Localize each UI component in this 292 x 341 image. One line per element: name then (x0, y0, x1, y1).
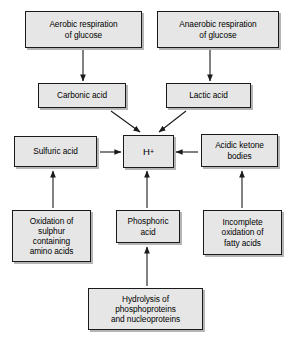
node-sulfuric: Sulfuric acid (14, 136, 97, 167)
node-fatty-acid-oxidation: Incomplete oxidation of fatty acids (203, 210, 282, 255)
node-label-lactic: Lactic acid (189, 90, 228, 100)
node-phosphoric: Phosphoric acid (116, 210, 180, 243)
node-ketone: Acidic ketone bodies (201, 134, 278, 167)
node-label-carbonic: Carbonic acid (57, 90, 107, 100)
node-aerobic: Aerobic respiration of glucose (25, 11, 142, 48)
node-hydrolysis: Hydrolysis of phosphoproteins and nucleo… (88, 288, 203, 330)
node-label-sulphur-oxidation: Oxidation of sulphur containing amino ac… (30, 216, 74, 256)
node-sulphur-oxidation: Oxidation of sulphur containing amino ac… (12, 210, 91, 262)
node-label-fatty-acid-oxidation: Incomplete oxidation of fatty acids (222, 217, 264, 247)
arrow-lactic-to-hydrogen (159, 111, 186, 132)
node-label-aerobic: Aerobic respiration of glucose (49, 19, 117, 39)
arrow-carbonic-to-hydrogen (111, 111, 140, 132)
node-label-sulfuric: Sulfuric acid (33, 146, 78, 156)
node-lactic: Lactic acid (166, 83, 251, 108)
node-anaerobic: Anaerobic respiration of glucose (157, 11, 279, 48)
node-label-hydrolysis: Hydrolysis of phosphoproteins and nucleo… (111, 294, 180, 324)
node-hydrogen: H+ (123, 135, 174, 168)
node-carbonic: Carbonic acid (38, 83, 126, 108)
node-label-ketone: Acidic ketone bodies (215, 140, 264, 160)
node-label-phosphoric: Phosphoric acid (127, 216, 168, 236)
node-label-hydrogen: H (143, 146, 150, 158)
node-label-anaerobic: Anaerobic respiration of glucose (179, 19, 256, 39)
flowchart-diagram: Aerobic respiration of glucoseAnaerobic … (0, 0, 292, 341)
